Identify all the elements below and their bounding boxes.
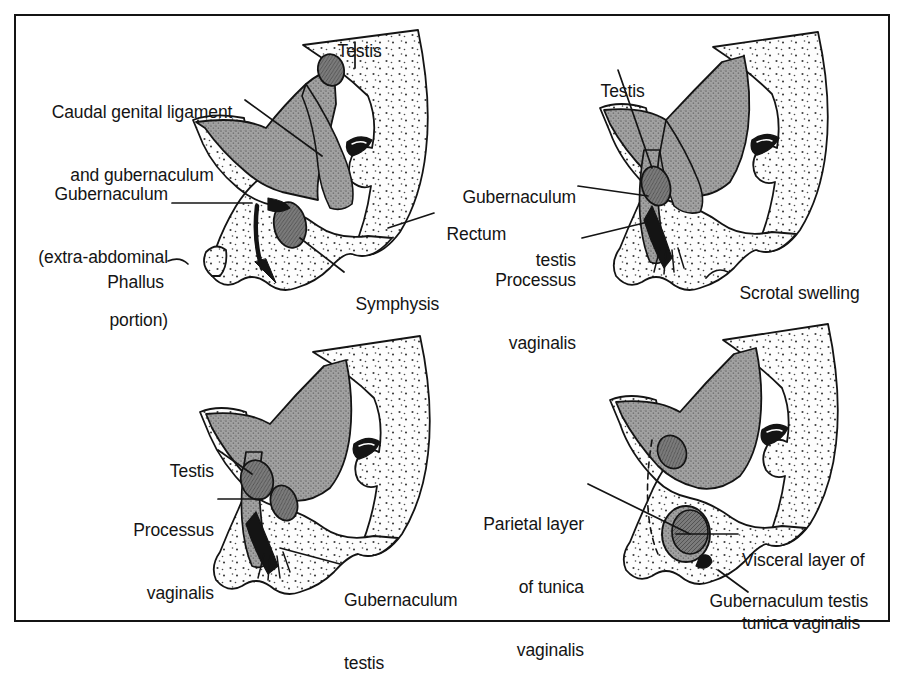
label-testis-top-left: Testis bbox=[312, 20, 398, 62]
label-line-1: Gubernaculum bbox=[12, 184, 168, 205]
label-text: Gubernaculum testis bbox=[710, 591, 869, 611]
label-testis-top-right: Testis bbox=[575, 60, 661, 102]
label-line-2: of tunica bbox=[436, 577, 584, 598]
label-text: Symphysis bbox=[356, 294, 440, 314]
label-gubernaculum-testis-bottom-right: Gubernaculum testis bbox=[700, 570, 868, 612]
label-processus-vaginalis-top-right: Processus vaginalis bbox=[440, 228, 576, 375]
label-gubernaculum-extra-abdominal: Gubernaculum (extra-abdominal portion) bbox=[12, 142, 168, 352]
label-line-1: Caudal genital ligament bbox=[20, 102, 264, 123]
label-parietal-layer-tunica-vaginalis: Parietal layer of tunica vaginalis bbox=[436, 472, 584, 673]
label-line-3: portion) bbox=[12, 310, 168, 331]
label-scrotal-swelling: Scrotal swelling bbox=[730, 262, 860, 304]
label-line-3: vaginalis bbox=[436, 640, 584, 661]
label-text: Testis bbox=[338, 41, 382, 61]
label-line-2: vaginalis bbox=[440, 333, 576, 354]
label-line-1: Parietal layer bbox=[436, 514, 584, 535]
label-text: Scrotal swelling bbox=[740, 283, 860, 303]
label-line-1: Visceral layer of bbox=[742, 550, 864, 571]
label-text: Phallus bbox=[107, 272, 164, 292]
label-line-1: Processus bbox=[440, 270, 576, 291]
label-symphysis: Symphysis bbox=[346, 273, 439, 315]
label-phallus: Phallus bbox=[56, 251, 164, 293]
label-line-2: vaginalis bbox=[86, 583, 214, 604]
label-line-2: tunica vaginalis bbox=[742, 613, 864, 634]
label-line-1: Processus bbox=[86, 520, 214, 541]
label-text: Testis bbox=[601, 81, 645, 101]
label-processus-vaginalis-bottom-left: Processus vaginalis bbox=[86, 478, 214, 625]
label-line-1: Gubernaculum bbox=[430, 187, 576, 208]
label-testis-bottom-left: Testis bbox=[110, 440, 214, 482]
